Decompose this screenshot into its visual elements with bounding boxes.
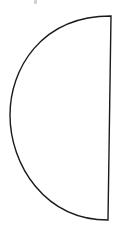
semicircle-shape bbox=[10, 16, 111, 220]
diagram-canvas bbox=[0, 0, 122, 235]
